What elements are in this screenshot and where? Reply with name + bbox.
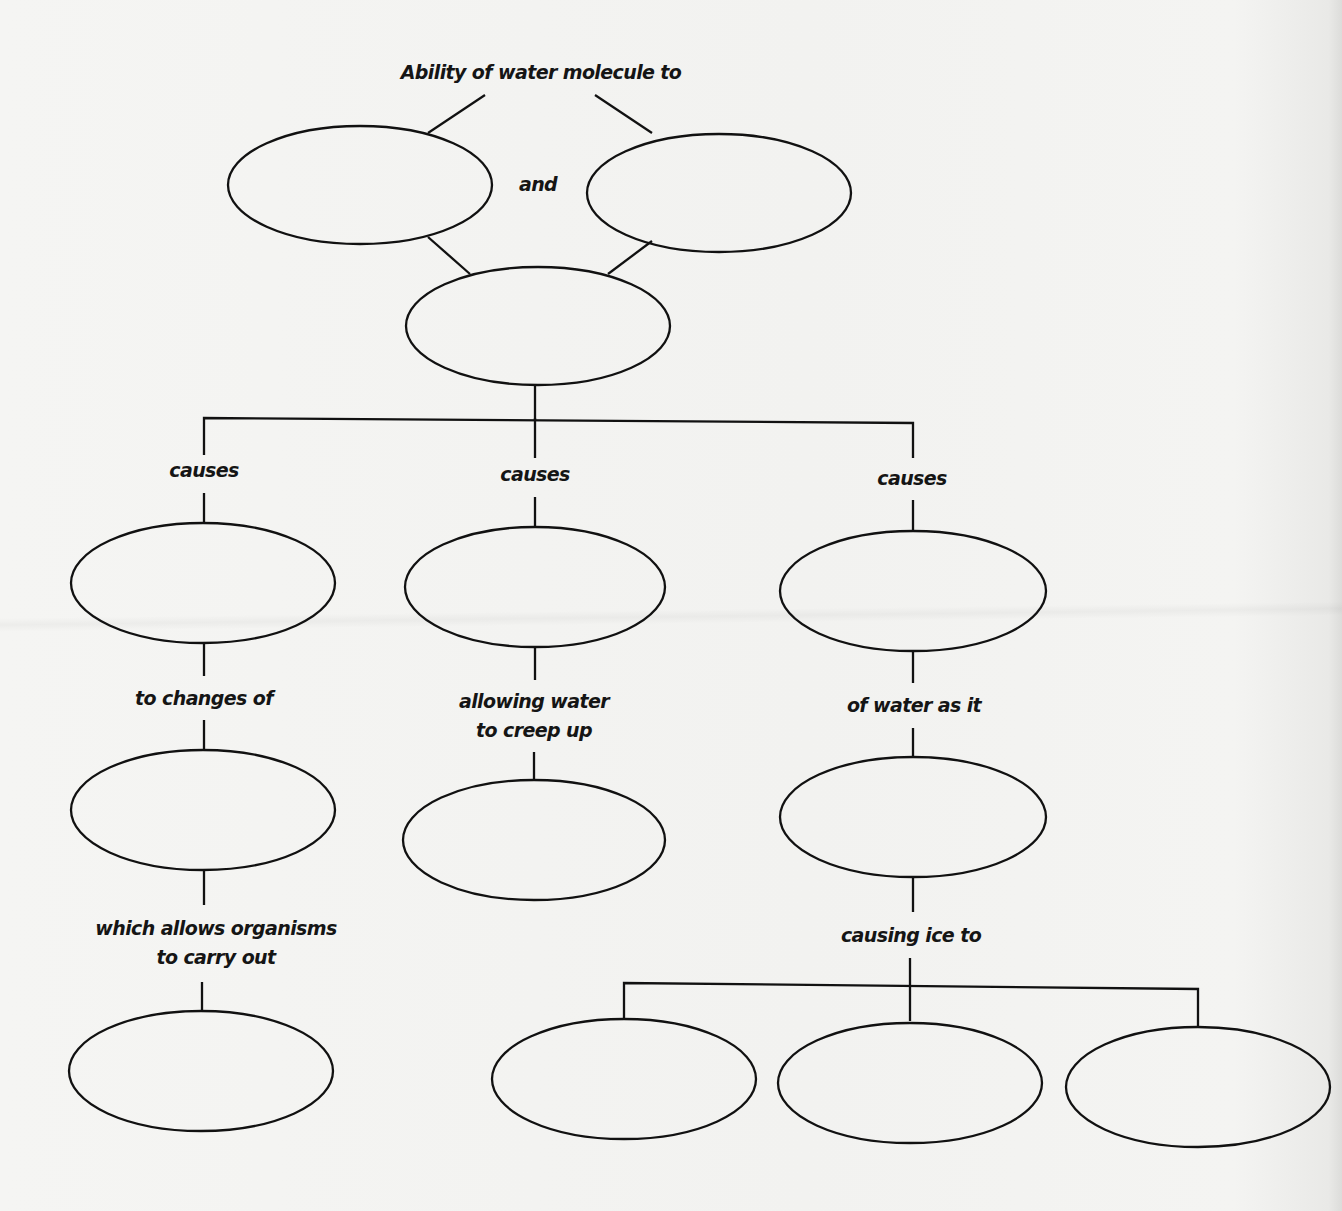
oval-property-b[interactable] bbox=[587, 134, 851, 252]
connector-causes-center: causes bbox=[500, 460, 570, 489]
oval-center-level-2[interactable] bbox=[403, 780, 665, 900]
oval-effect-right[interactable] bbox=[780, 531, 1046, 651]
oval-ice-result-1[interactable] bbox=[492, 1019, 756, 1139]
oval-ice-result-3[interactable] bbox=[1066, 1027, 1330, 1147]
connector-allowing-water-line-2: to creep up bbox=[459, 716, 609, 745]
oval-central-concept[interactable] bbox=[406, 267, 670, 385]
oval-property-a[interactable] bbox=[228, 126, 492, 244]
oval-right-level-2[interactable] bbox=[780, 757, 1046, 877]
oval-left-level-2[interactable] bbox=[71, 750, 335, 870]
edge-title-to-property-a bbox=[428, 95, 485, 133]
connector-of-water-as-it: of water as it bbox=[847, 691, 981, 720]
connector-causing-ice-to: causing ice to bbox=[841, 921, 981, 950]
connector-which-allows-line-1: which allows organisms bbox=[95, 914, 336, 943]
oval-effect-center[interactable] bbox=[405, 527, 665, 647]
connector-causes-right: causes bbox=[877, 464, 947, 493]
connector-to-changes-of: to changes of bbox=[135, 684, 273, 713]
edge-property-a-to-central bbox=[428, 237, 470, 274]
connector-allowing-water-line-1: allowing water bbox=[459, 687, 609, 716]
diagram-title: Ability of water molecule to bbox=[401, 58, 682, 87]
oval-ice-result-2[interactable] bbox=[778, 1023, 1042, 1143]
concept-map bbox=[0, 0, 1342, 1211]
connector-and: and bbox=[519, 170, 557, 199]
oval-effect-left[interactable] bbox=[71, 523, 335, 643]
edge-title-to-property-b bbox=[595, 95, 652, 133]
oval-left-level-3[interactable] bbox=[69, 1011, 333, 1131]
connector-which-allows: which allows organisms to carry out bbox=[95, 914, 336, 972]
branch-bar-main bbox=[204, 418, 913, 458]
edge-property-b-to-central bbox=[608, 241, 652, 274]
connector-causes-left: causes bbox=[169, 456, 239, 485]
connector-allowing-water: allowing water to creep up bbox=[459, 687, 609, 745]
connector-which-allows-line-2: to carry out bbox=[95, 943, 336, 972]
